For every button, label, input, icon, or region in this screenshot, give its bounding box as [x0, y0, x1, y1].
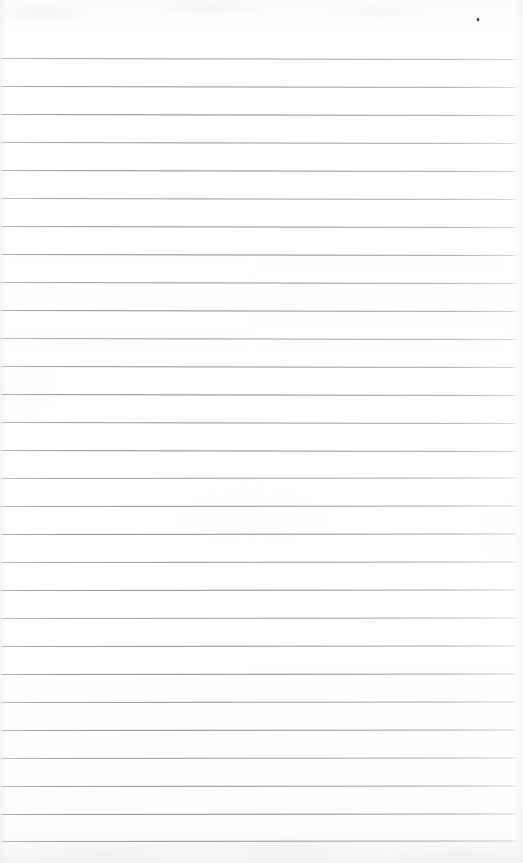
paper-background	[0, 0, 523, 863]
scanned-page	[0, 0, 523, 863]
ink-speck-artifact	[477, 18, 479, 21]
